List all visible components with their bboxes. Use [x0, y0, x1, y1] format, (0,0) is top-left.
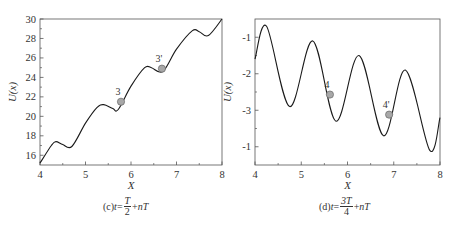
y-tick-label: 16	[26, 150, 37, 161]
plot-frame-c	[40, 19, 222, 165]
y-axis-label-d: U(x)	[221, 82, 234, 102]
x-tick-label: 4	[37, 169, 43, 180]
ball-marker	[117, 98, 124, 105]
x-tick-label: 7	[174, 169, 179, 180]
caption-d-prefix: (d)	[319, 201, 331, 212]
annotation-points-c: 33'	[115, 53, 165, 106]
y-tick-label: 28	[26, 33, 37, 44]
caption-d-eq: =	[333, 201, 339, 212]
x-tick-label: 8	[219, 169, 224, 180]
caption-d: (d) t = 3T 4 + nT	[319, 196, 370, 217]
y-tick-label: -1	[242, 32, 251, 43]
x-tick-label: 5	[83, 169, 88, 180]
ball-marker	[386, 111, 393, 118]
y-tick-label: -3	[242, 105, 251, 116]
annotation-points-d: 44'	[324, 79, 392, 119]
panel-c: 45678 1618202224262830 33' X U(x)	[6, 14, 225, 192]
y-tick-label: 26	[26, 52, 37, 63]
y-tick-label: 20	[26, 111, 37, 122]
y-tick-label: 22	[26, 91, 37, 102]
x-tick-label: 8	[437, 169, 442, 180]
caption-d-fraction: 3T 4	[340, 196, 353, 217]
caption-c-eq: =	[117, 201, 123, 212]
x-tick-label: 5	[299, 169, 304, 180]
x-axis-label-c: X	[127, 179, 136, 191]
x-tick-label: 7	[391, 169, 396, 180]
caption-d-suffix: nT	[359, 201, 370, 212]
ball-marker	[326, 91, 333, 98]
y-tick-label: 24	[26, 72, 37, 83]
y-axis-ticks-d: -1-2-3-1	[242, 32, 258, 153]
potential-curve-d	[255, 25, 440, 151]
y-tick-label: -2	[242, 68, 251, 79]
ball-marker	[158, 65, 165, 72]
figure: 45678 1618202224262830 33' X U(x) 45678 …	[0, 0, 454, 226]
caption-c: (c) t = T 2 + nT	[103, 196, 148, 217]
x-axis-ticks-c: 45678	[37, 162, 224, 181]
point-label: 4	[324, 79, 329, 90]
point-label: 3'	[156, 53, 163, 64]
caption-c-prefix: (c)	[103, 201, 114, 212]
point-label: 4'	[383, 99, 390, 110]
caption-c-denominator: 2	[124, 207, 131, 217]
caption-d-denominator: 4	[343, 207, 350, 217]
x-axis-ticks-d: 45678	[252, 162, 442, 181]
y-tick-label: 30	[26, 14, 37, 25]
panel-d: 45678 -1-2-3-1 44' X U(x)	[221, 19, 443, 191]
x-tick-label: 4	[252, 169, 258, 180]
potential-curve-c	[40, 19, 222, 163]
y-tick-label: -1	[242, 141, 251, 152]
caption-c-fraction: T 2	[124, 196, 132, 217]
point-label: 3	[115, 86, 120, 97]
x-axis-label-d: X	[343, 179, 352, 191]
y-axis-label-c: U(x)	[6, 82, 19, 102]
y-axis-ticks-c: 1618202224262830	[26, 14, 44, 161]
y-tick-label: 18	[26, 130, 37, 141]
caption-c-suffix: nT	[138, 201, 149, 212]
